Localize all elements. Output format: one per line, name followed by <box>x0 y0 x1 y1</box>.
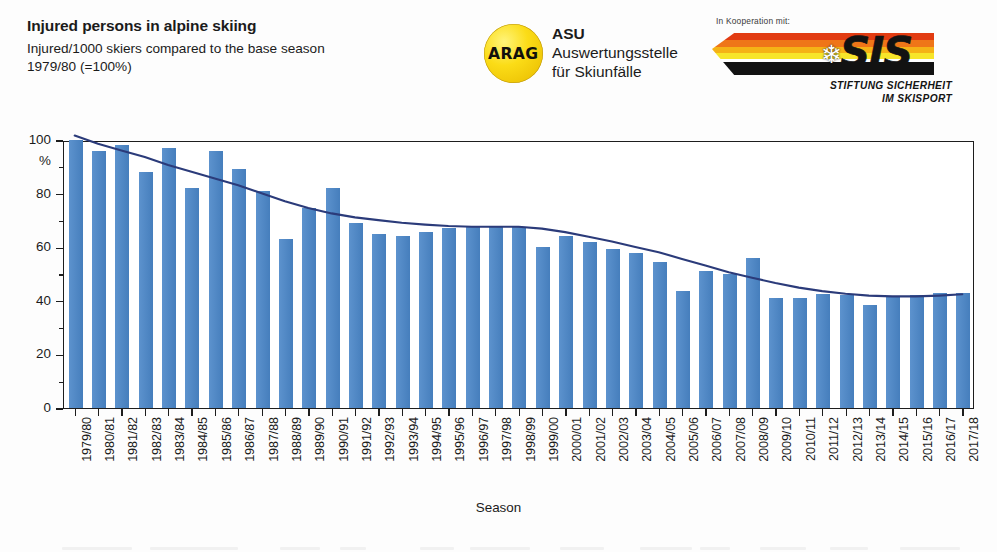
x-axis-tick-label: 1995/96 <box>453 417 467 462</box>
x-axis-tick-label: 1982/83 <box>150 417 164 462</box>
x-axis-tick-label: 1988/89 <box>290 417 304 462</box>
x-axis-tick <box>659 409 660 416</box>
x-axis-tick <box>75 409 76 416</box>
y-axis-tick-label: 80 <box>5 186 51 201</box>
x-axis-tick <box>448 409 449 416</box>
y-axis-tick-label: 40 <box>5 293 51 308</box>
caption-smudge <box>760 547 806 550</box>
x-axis-tick-label: 2014/15 <box>897 417 911 462</box>
x-axis-tick-label: 1983/84 <box>173 417 187 462</box>
x-axis-tick <box>962 409 963 416</box>
caption-smudge <box>280 547 320 550</box>
x-axis-tick-label: 1986/87 <box>243 417 257 462</box>
x-axis-tick <box>262 409 263 416</box>
x-axis-tick-label: 1984/85 <box>196 417 210 462</box>
x-axis-tick <box>729 409 730 416</box>
chart-header: Injured persons in alpine skiing Injured… <box>0 0 997 126</box>
x-axis-tick-label: 1993/94 <box>407 417 421 462</box>
y-axis-tick <box>56 248 63 249</box>
sis-logo-mark: ❄ SIS <box>712 29 970 78</box>
x-axis-tick <box>705 409 706 416</box>
caption-smudge <box>470 547 530 550</box>
x-axis-tick-label: 2017/18 <box>967 417 981 462</box>
x-axis-tick-label: 1994/95 <box>430 417 444 462</box>
x-axis-tick <box>378 409 379 416</box>
x-axis-tick <box>495 409 496 416</box>
title-block: Injured persons in alpine skiing Injured… <box>27 16 325 75</box>
x-axis-tick-label: 1981/82 <box>126 417 140 462</box>
x-axis-tick-label: 2016/17 <box>944 417 958 462</box>
x-axis-tick <box>682 409 683 416</box>
x-axis-tick <box>612 409 613 416</box>
x-axis-tick <box>191 409 192 416</box>
x-axis-tick-label: 2004/05 <box>664 417 678 462</box>
x-axis-tick-label: 1999/00 <box>547 417 561 462</box>
arag-badge-label: ARAG <box>488 45 538 63</box>
x-axis-tick-label: 2003/04 <box>640 417 654 462</box>
y-axis-tick <box>56 140 63 141</box>
x-axis-tick <box>121 409 122 416</box>
x-axis-tick-label: 1980/81 <box>103 417 117 462</box>
caption-smudge <box>150 547 238 550</box>
x-axis-tick <box>355 409 356 416</box>
x-axis-tick <box>846 409 847 416</box>
y-axis-tick <box>56 301 63 302</box>
x-axis-tick <box>892 409 893 416</box>
caption-smudge <box>560 547 604 550</box>
chart-subtitle: Injured/1000 skiers compared to the base… <box>27 40 325 75</box>
x-axis-tick-label: 2011/12 <box>827 417 841 461</box>
x-axis-tick-label: 2002/03 <box>617 417 631 462</box>
x-axis-tick-label: 2000/01 <box>570 417 584 462</box>
caption-smudge <box>830 547 868 550</box>
x-axis-tick <box>285 409 286 416</box>
y-axis-tick-label: 0 <box>5 400 51 415</box>
x-axis-tick-label: 2005/06 <box>687 417 701 462</box>
x-axis-tick <box>916 409 917 416</box>
x-axis-tick-label: 2015/16 <box>921 417 935 462</box>
sis-subtitle-line-1: STIFTUNG SICHERHEIT <box>712 79 952 92</box>
x-axis-tick-label: 1996/97 <box>477 417 491 462</box>
x-axis-title: Season <box>0 500 997 515</box>
x-axis-tick <box>869 409 870 416</box>
x-axis-tick <box>635 409 636 416</box>
x-axis-tick-label: 1997/98 <box>500 417 514 462</box>
x-axis-tick <box>215 409 216 416</box>
x-axis-tick <box>425 409 426 416</box>
x-axis-tick-label: 1987/88 <box>267 417 281 462</box>
x-axis-tick <box>752 409 753 416</box>
y-axis-tick <box>56 355 63 356</box>
y-axis-tick-label: 20 <box>5 346 51 361</box>
x-axis-tick-label: 2008/09 <box>757 417 771 462</box>
asu-name-line-2: für Skiunfälle <box>552 62 678 81</box>
caption-smudge <box>62 547 132 550</box>
x-axis-tick <box>98 409 99 416</box>
x-axis-tick <box>472 409 473 416</box>
x-axis-tick <box>822 409 823 416</box>
sis-logo: In Kooperation mit: ❄ SIS STIFTUNG SICHE… <box>712 16 980 105</box>
x-axis-tick-label: 1998/99 <box>524 417 538 462</box>
x-axis-tick-label: 2009/10 <box>780 417 794 462</box>
cooperation-note: In Kooperation mit: <box>716 16 980 26</box>
y-axis-tick <box>56 408 63 409</box>
x-axis-tick <box>238 409 239 416</box>
x-axis-tick <box>939 409 940 416</box>
caption-smudge <box>640 547 692 550</box>
caption-smudge <box>900 547 960 550</box>
chart-plot-area: 020406080100% 1979/801980/811981/821982/… <box>0 126 997 552</box>
x-axis-tick <box>542 409 543 416</box>
x-axis-tick-label: 2012/13 <box>851 417 865 462</box>
x-axis-tick-label: 2001/02 <box>594 417 608 462</box>
x-axis-tick <box>589 409 590 416</box>
x-axis-tick-label: 1985/86 <box>220 417 234 462</box>
x-axis-tick <box>402 409 403 416</box>
asu-name-line-1: Auswertungsstelle <box>552 43 678 62</box>
x-axis-tick <box>332 409 333 416</box>
y-axis-tick-label: 100 <box>5 132 51 147</box>
x-axis-tick <box>308 409 309 416</box>
x-axis-tick-label: 2006/07 <box>710 417 724 462</box>
trend-line-series <box>63 131 974 419</box>
trend-line <box>75 136 963 297</box>
asu-logo: ARAG ASU Auswertungsstelle für Skiunfäll… <box>484 24 678 83</box>
x-axis-tick <box>799 409 800 416</box>
y-axis-unit-label: % <box>5 153 51 168</box>
